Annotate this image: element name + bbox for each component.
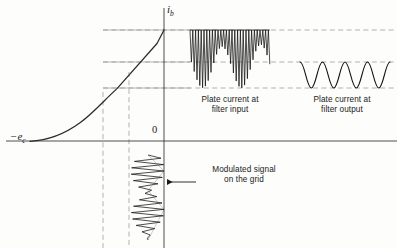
caption-filter-output: Plate current at filter output: [296, 95, 388, 115]
waveform-filter-output: [300, 62, 390, 88]
caption-modulated-signal-line2: on the grid: [196, 175, 292, 185]
caption-filter-output-line2: filter output: [296, 105, 388, 115]
y-axis-label: ib: [167, 3, 174, 18]
caption-filter-output-line1: Plate current at: [296, 95, 388, 105]
waveform-filter-input: [190, 30, 270, 88]
figure-canvas: [0, 0, 397, 248]
waveform-modulated-grid-signal: [131, 155, 164, 240]
origin-label: 0: [152, 124, 157, 135]
gridlines-solid: [103, 30, 190, 88]
caption-filter-input-line2: filter input: [184, 105, 276, 115]
caption-modulated-signal: Modulated signal on the grid: [196, 165, 292, 185]
caption-modulated-signal-line1: Modulated signal: [196, 165, 292, 175]
x-axis-label: −ec: [10, 130, 26, 145]
caption-filter-input: Plate current at filter input: [184, 95, 276, 115]
figure-plate-current-characteristic: ib −ec 0 Plate current at filter input P…: [0, 0, 397, 248]
transfer-curve: [30, 30, 164, 141]
caption-filter-input-line1: Plate current at: [184, 95, 276, 105]
